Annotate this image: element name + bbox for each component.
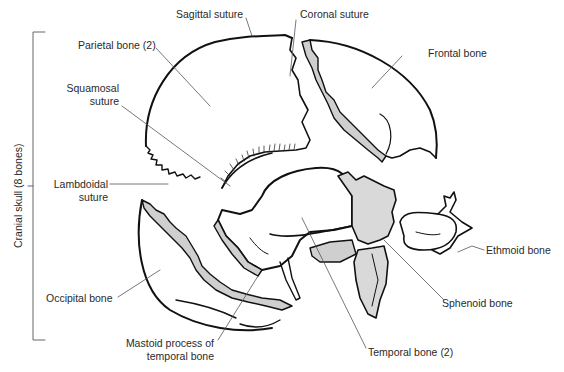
label-parietal-bone: Parietal bone (2)	[78, 39, 156, 52]
ethmoid-bone-shape	[400, 192, 472, 254]
label-lambdoidal-suture-line2: suture	[50, 191, 108, 204]
label-ethmoid-bone: Ethmoid bone	[486, 244, 551, 257]
label-sphenoid-bone: Sphenoid bone	[442, 297, 513, 310]
label-lambdoidal-suture-line1: Lambdoidal	[50, 178, 108, 191]
label-cranial-skull-bracket: Cranial skull (8 bones)	[12, 144, 24, 248]
label-sagittal-suture: Sagittal suture	[176, 8, 243, 21]
cranial-bracket	[28, 32, 45, 340]
label-squamosal-suture-line2: suture	[66, 95, 119, 108]
label-coronal-suture: Coronal suture	[300, 8, 369, 21]
skull-diagram: Sagittal suture Coronal suture Parietal …	[0, 0, 564, 372]
label-frontal-bone: Frontal bone	[428, 47, 487, 60]
label-squamosal-suture-line1: Squamosal	[66, 82, 119, 95]
frontal-bone-shape	[302, 40, 437, 162]
label-mastoid-process-line2: temporal bone	[118, 350, 214, 363]
temporal-bone-shape	[214, 168, 356, 300]
label-mastoid-process-line1: Mastoid process of	[118, 337, 214, 350]
label-occipital-bone: Occipital bone	[46, 292, 113, 305]
label-temporal-bone: Temporal bone (2)	[368, 346, 453, 359]
parietal-bone-shape	[146, 35, 310, 188]
